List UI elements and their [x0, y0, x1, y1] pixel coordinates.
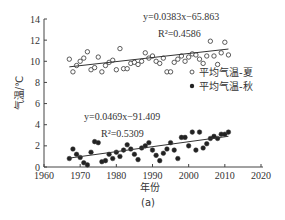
summer-point	[118, 46, 122, 50]
autumn-point	[204, 141, 209, 146]
summer-point	[168, 70, 172, 74]
x-tick-label: 2000	[179, 170, 199, 181]
x-tick-label: 1970	[70, 170, 90, 181]
summer-point	[85, 50, 89, 54]
summer-point	[223, 40, 227, 44]
summer-point	[158, 61, 162, 65]
autumn-point	[172, 148, 177, 153]
summer-point	[208, 39, 212, 43]
summer-point	[139, 59, 143, 63]
y-tick-label: 4	[35, 119, 40, 130]
autumn-point	[136, 157, 141, 162]
summer-point	[172, 60, 176, 64]
summer-point	[194, 53, 198, 57]
autumn-point	[147, 140, 152, 145]
autumn-point	[71, 147, 76, 152]
autumn-point	[201, 146, 206, 151]
autumn-point	[154, 153, 159, 158]
summer-point	[226, 53, 230, 57]
summer-point	[67, 57, 71, 61]
autumn-point	[226, 130, 231, 135]
summer-point	[96, 55, 100, 59]
autumn-point	[194, 148, 199, 153]
x-tick-label: 2010	[215, 170, 235, 181]
autumn-point	[89, 150, 94, 155]
autumn-point	[157, 158, 162, 163]
autumn-point	[125, 143, 130, 148]
autumn-point	[183, 135, 188, 140]
summer-point	[114, 68, 118, 72]
autumn-point	[103, 158, 108, 163]
summer-point	[78, 59, 82, 63]
autumn-point	[150, 148, 155, 153]
y-tick-label: 8	[35, 77, 40, 88]
summer-point	[143, 51, 147, 55]
x-tick-label: 1990	[143, 170, 163, 181]
x-tick-label: 1980	[106, 170, 126, 181]
summer-point	[71, 70, 75, 74]
summer-point	[92, 65, 96, 69]
y-tick-label: 2	[35, 140, 40, 151]
autumn-r2: R²=0.5309	[101, 128, 144, 139]
autumn-point	[197, 130, 202, 135]
summer-point	[103, 63, 107, 67]
summer-point	[136, 62, 140, 66]
summer-r2: R²=0.4586	[158, 28, 201, 39]
y-tick-label: 10	[30, 56, 40, 67]
autumn-point	[186, 144, 191, 149]
summer-point	[205, 54, 209, 58]
autumn-point	[118, 154, 123, 159]
summer-point	[212, 54, 216, 58]
summer-point	[219, 51, 223, 55]
summer-point	[82, 56, 86, 60]
figure-caption: (a)	[141, 197, 155, 208]
legend-filled-circle-icon	[190, 84, 194, 88]
y-tick-label: 6	[35, 98, 40, 109]
x-tick-label: 2020	[251, 170, 271, 181]
y-tick-label: 12	[30, 35, 40, 46]
autumn-point	[110, 156, 115, 161]
legend-open-circle-icon	[190, 70, 194, 74]
summer-point	[197, 57, 201, 61]
summer-point	[176, 57, 180, 61]
autumn-point	[132, 152, 137, 157]
summer-point	[183, 59, 187, 63]
summer-equation: y=0.0383x−65.863	[143, 11, 219, 22]
scatter-chart: 196019701980199020002010202002468101214 …	[0, 0, 285, 220]
autumn-point	[165, 147, 170, 152]
y-tick-label: 14	[30, 14, 40, 25]
autumn-point	[161, 151, 166, 156]
summer-point	[100, 70, 104, 74]
legend-summer: 平均气温-夏	[199, 66, 253, 78]
summer-point	[201, 61, 205, 65]
autumn-point	[190, 130, 195, 135]
axes: 196019701980199020002010202002468101214	[30, 14, 271, 182]
autumn-point	[67, 156, 72, 161]
autumn-point	[96, 140, 101, 145]
autumn-point	[176, 156, 181, 161]
summer-point	[125, 66, 129, 70]
autumn-equation: y=0.0469x−91.409	[84, 111, 160, 122]
autumn-point	[85, 163, 90, 168]
legend-autumn: 平均气温-秋	[199, 80, 253, 92]
y-tick-label: 0	[35, 162, 40, 173]
x-axis-title: 年份	[140, 181, 160, 193]
y-axis-title: 气温/℃	[13, 76, 25, 111]
summer-point	[186, 55, 190, 59]
